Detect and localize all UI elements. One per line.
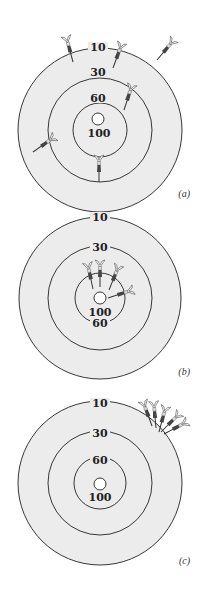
dartboard-b: 10 30 100 60 (b) xyxy=(19,211,191,379)
dart-icon xyxy=(153,36,178,63)
ring-label-10: 10 xyxy=(92,211,108,224)
ring-label-100: 100 xyxy=(89,491,112,504)
ring-label-30: 30 xyxy=(92,241,108,254)
caption-c: (c) xyxy=(179,555,191,567)
ring-label-10: 10 xyxy=(90,41,106,54)
ring-label-30: 30 xyxy=(92,427,108,440)
ring-label-60: 60 xyxy=(92,317,108,330)
caption-b: (b) xyxy=(178,366,190,378)
ring-label-30: 30 xyxy=(90,66,106,79)
ring-label-60: 60 xyxy=(90,92,106,105)
dartboard-a: 10 30 60 100 (a) xyxy=(18,35,191,212)
caption-a: (a) xyxy=(178,188,190,200)
ring-label-10: 10 xyxy=(92,397,108,410)
dartboard-figure: 10 30 60 100 (a) 10 30 100 60 (b) xyxy=(0,0,208,590)
ring-label-100: 100 xyxy=(88,127,111,140)
dartboard-c: 10 30 60 100 (c) xyxy=(18,397,191,567)
ring-label-60: 60 xyxy=(92,454,108,467)
